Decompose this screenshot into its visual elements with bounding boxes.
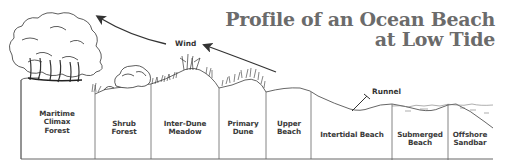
grass-tuft <box>92 83 101 92</box>
title-line-1: Profile of an Ocean Beach <box>225 9 495 29</box>
water-waves <box>392 104 493 113</box>
runnel-label: Runnel <box>372 87 401 96</box>
maritime-forest-tree <box>9 13 102 82</box>
meadow-grass <box>152 54 200 84</box>
zone-label-intertidal-beach: Intertidal Beach <box>320 131 384 139</box>
wind-arrow-right <box>207 46 276 72</box>
beach-profile-diagram: Profile of an Ocean Beach at Low Tide Wi… <box>0 0 505 168</box>
zone-label-maritime-climax-forest: Maritime Climax Forest <box>39 110 74 135</box>
wind-label: Wind <box>175 39 196 48</box>
zone-label-primary-dune: Primary Dune <box>227 120 258 137</box>
title-line-2: at Low Tide <box>375 29 495 49</box>
zone-label-upper-beach: Upper Beach <box>277 120 301 137</box>
zone-label-submerged-beach: Submerged Beach <box>397 131 443 148</box>
wind-arrow-left <box>100 18 166 44</box>
shrub <box>104 66 151 91</box>
dune-grass <box>206 67 265 88</box>
zone-label-inter-dune-meadow: Inter-Dune Meadow <box>164 120 207 137</box>
runnel-pointer <box>352 94 370 111</box>
zone-label-offshore-sandbar: Offshore Sandbar <box>453 131 487 148</box>
zone-label-shrub-forest: Shrub Forest <box>111 120 136 137</box>
